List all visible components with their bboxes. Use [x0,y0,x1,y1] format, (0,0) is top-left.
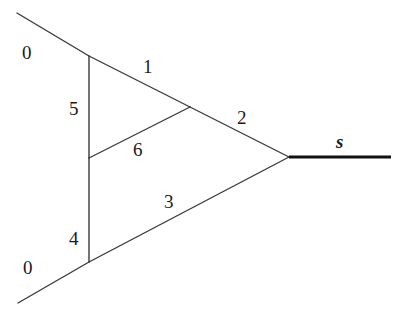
label-two: 2 [237,107,247,128]
edge-1 [89,56,190,107]
label-six: 6 [133,139,143,160]
edge-3 [89,157,289,262]
label-five: 5 [69,98,79,119]
label-top-zero: 0 [22,42,32,63]
label-bottom-zero: 0 [23,257,33,278]
label-four: 4 [69,228,79,249]
label-three: 3 [164,191,174,212]
diagram-canvas: 0 1 5 6 2 s 4 3 0 [0,0,408,318]
label-one: 1 [143,56,153,77]
label-s: s [335,131,343,152]
